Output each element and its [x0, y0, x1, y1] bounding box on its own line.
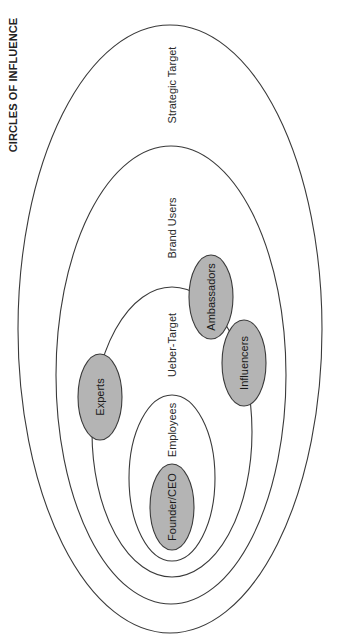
- node-founder-ceo: Founder/CEO: [150, 464, 194, 550]
- ring-label-employees: Employees: [166, 402, 178, 457]
- node-label-experts: Experts: [94, 378, 106, 416]
- node-label-influencers: Influencers: [238, 336, 250, 390]
- node-influencers: Influencers: [222, 320, 266, 406]
- ring-label-strategic-target: Strategic Target: [166, 47, 178, 124]
- ring-label-brand-users: Brand Users: [166, 197, 178, 259]
- ring-label-ueber-target: Ueber-Target: [166, 313, 178, 377]
- node-experts: Experts: [78, 354, 122, 440]
- node-label-ambassadors: Ambassadors: [205, 263, 217, 331]
- node-ambassadors: Ambassadors: [189, 255, 233, 339]
- diagram-title: CIRCLES OF INFLUENCE: [7, 18, 19, 153]
- node-label-founder-ceo: Founder/CEO: [166, 473, 178, 541]
- circles-of-influence-diagram: CIRCLES OF INFLUENCE Strategic Target Br…: [0, 0, 338, 642]
